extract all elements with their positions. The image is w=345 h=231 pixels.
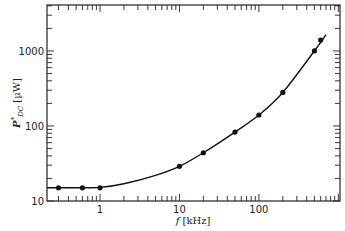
data-point xyxy=(177,164,182,169)
y-tick-label: 1000 xyxy=(19,46,44,57)
data-point xyxy=(80,185,85,190)
x-tick-label: 1 xyxy=(97,204,103,215)
y-axis-label: P*DC [µW] xyxy=(10,78,25,129)
chart: 110100101001000 f [kHz] P*DC [µW] xyxy=(0,0,345,231)
fit-curve xyxy=(47,35,326,188)
data-point xyxy=(97,185,102,190)
axis-ticks xyxy=(47,5,340,201)
y-tick-label: 10 xyxy=(31,196,44,207)
data-point xyxy=(201,150,206,155)
x-tick-label: 10 xyxy=(173,204,186,215)
data-markers xyxy=(56,37,323,190)
data-point xyxy=(232,129,237,134)
x-axis-label: f [kHz] xyxy=(175,215,211,226)
plot-frame xyxy=(47,5,340,201)
data-point xyxy=(280,90,285,95)
data-point xyxy=(318,37,323,42)
data-point xyxy=(312,48,317,53)
tick-labels: 110100101001000 xyxy=(19,46,269,215)
y-tick-label: 100 xyxy=(25,121,44,132)
data-point xyxy=(56,185,61,190)
x-tick-label: 100 xyxy=(249,204,268,215)
data-point xyxy=(256,112,261,117)
